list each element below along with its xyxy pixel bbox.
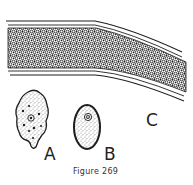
label-c: C [146, 112, 158, 129]
figure-illustration [0, 0, 193, 185]
figure-caption: Figure 269 [73, 168, 118, 176]
label-b: B [104, 146, 116, 163]
label-a: A [44, 146, 56, 163]
oval-cell-b [74, 105, 100, 149]
cell-band-c [6, 21, 186, 101]
amoeboid-cell-a [16, 90, 48, 148]
